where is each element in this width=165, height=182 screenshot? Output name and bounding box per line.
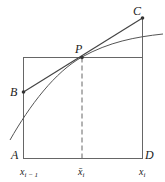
label-x-bar-i: x̄i bbox=[77, 166, 84, 179]
point-P bbox=[80, 56, 84, 60]
point-B bbox=[22, 90, 26, 94]
tangent-line-BC bbox=[24, 18, 143, 92]
label-P: P bbox=[74, 42, 83, 56]
label-C: C bbox=[133, 4, 142, 18]
label-B: B bbox=[10, 85, 18, 99]
point-C bbox=[141, 16, 145, 20]
label-A: A bbox=[10, 148, 19, 162]
midpoint-tangent-diagram: A D B P C xi − 1 x̄i xi bbox=[0, 0, 165, 182]
rectangle bbox=[24, 58, 143, 159]
function-curve bbox=[10, 34, 163, 140]
label-x-i: xi bbox=[138, 166, 145, 179]
label-x-i-minus-1: xi − 1 bbox=[19, 166, 38, 179]
label-D: D bbox=[144, 148, 154, 162]
